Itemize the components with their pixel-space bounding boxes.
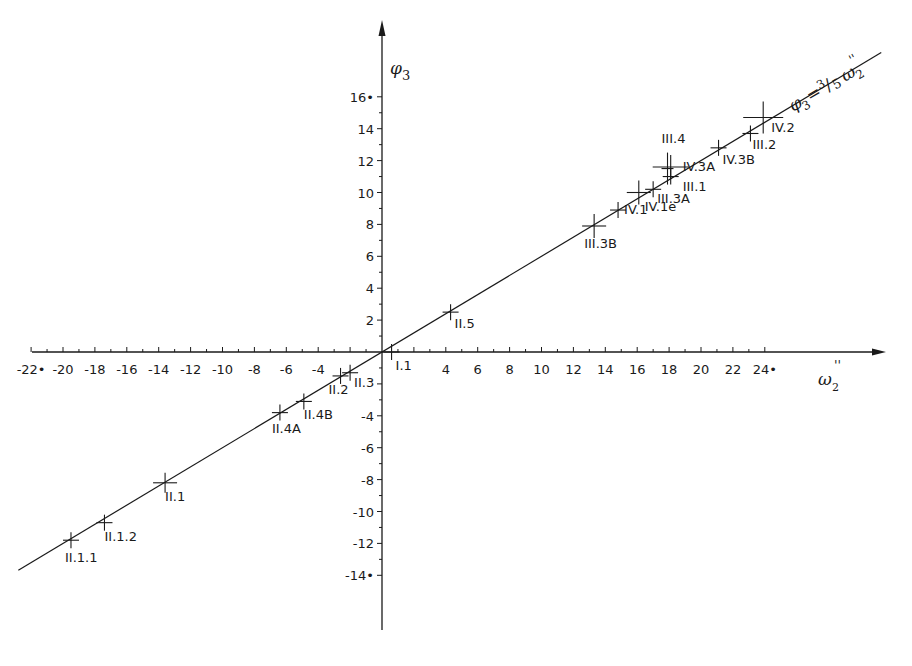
fit-line (18, 52, 881, 570)
y-tick-label: -6 (361, 441, 374, 456)
y-ticks: 16•1412108642-4-6-8-10-12-14• (345, 90, 382, 584)
data-point: II.1 (153, 473, 185, 504)
data-point-label: IV.3A (683, 159, 715, 174)
x-axis-title: ω 2 '' (818, 358, 841, 394)
x-tick-label: -14 (148, 362, 169, 377)
data-point-label: II.1.1 (65, 550, 97, 565)
data-point: III.3B (582, 214, 617, 251)
y-tick-label: 12 (357, 154, 374, 169)
fit-line-label: φ 3 = 3 / 5 ω 2 '' (782, 51, 868, 119)
data-point-label: II.1.2 (104, 529, 136, 544)
x-tick-label: 20 (693, 362, 710, 377)
y-tick-label: -8 (361, 473, 374, 488)
y-tick-label: 16• (350, 90, 374, 105)
y-tick-label: 14 (357, 122, 374, 137)
x-tick-label: -8 (248, 362, 261, 377)
x-axis-arrow-icon (872, 349, 886, 356)
y-axis-arrow-icon (379, 20, 386, 36)
data-point-label: III.3B (584, 236, 617, 251)
x-tick-label: -6 (280, 362, 293, 377)
y-tick-label: 4 (366, 281, 374, 296)
x-tick-label: -16 (116, 362, 137, 377)
y-tick-label: -4 (361, 409, 374, 424)
y-tick-label: 6 (366, 249, 374, 264)
data-point-label: I.1 (396, 358, 412, 373)
data-point: IV.3B (711, 140, 755, 167)
x-tick-label: 8 (505, 362, 513, 377)
x-tick-label: -18 (84, 362, 105, 377)
axes: -22•-20-18-16-14-12-10-8-6-4468101214161… (17, 20, 886, 630)
data-point-label: III.4 (662, 131, 686, 146)
x-tick-label: -12 (180, 362, 201, 377)
y-axis-title: φ 3 (390, 58, 410, 83)
x-tick-label: 12 (565, 362, 582, 377)
x-axis-title-sub: 2 (832, 381, 839, 394)
data-point-label: II.1 (165, 489, 185, 504)
y-tick-label: 10 (357, 186, 374, 201)
y-tick-label: -14• (345, 568, 374, 583)
y-tick-label: 8 (366, 217, 374, 232)
data-points: I.1II.5II.3II.2II.4BII.4AII.1II.1.2II.1.… (63, 102, 795, 566)
data-point: IV.3A (653, 155, 715, 179)
data-point-label: IV.3B (723, 152, 755, 167)
data-point-label: II.5 (455, 316, 475, 331)
x-tick-label: -20 (52, 362, 73, 377)
x-tick-label: -22• (17, 362, 46, 377)
data-point-label: II.3 (354, 375, 374, 390)
y-tick-label: -10 (353, 505, 374, 520)
x-tick-label: 18 (661, 362, 678, 377)
x-tick-label: -4 (312, 362, 325, 377)
x-tick-label: 4 (442, 362, 450, 377)
x-axis-title-main: ω (818, 369, 832, 389)
data-point-label: IV.2 (771, 120, 794, 135)
chart-canvas: -22•-20-18-16-14-12-10-8-6-4468101214161… (0, 0, 912, 666)
data-point-label: II.4A (272, 421, 301, 436)
data-point: II.5 (443, 304, 475, 331)
x-tick-label: 6 (474, 362, 482, 377)
y-tick-label: 2 (366, 313, 374, 328)
data-point-label: II.2 (329, 382, 349, 397)
x-axis-title-sup: '' (834, 358, 841, 373)
data-point-label: II.4B (304, 407, 333, 422)
x-tick-label: 14 (597, 362, 614, 377)
x-tick-label: 24• (753, 362, 777, 377)
data-point: II.1.1 (63, 532, 97, 565)
x-tick-label: 10 (533, 362, 550, 377)
data-point: IV.1 (610, 202, 647, 218)
y-axis-title-main: φ (390, 58, 402, 78)
data-point-label: III.1 (683, 179, 707, 194)
x-tick-label: 22 (725, 362, 742, 377)
y-tick-label: -12 (353, 536, 374, 551)
data-point: II.4B (296, 393, 333, 422)
y-axis-title-sub: 3 (402, 68, 410, 83)
x-tick-label: 16 (629, 362, 646, 377)
data-point-label: III.2 (752, 137, 776, 152)
x-tick-label: -10 (212, 362, 233, 377)
